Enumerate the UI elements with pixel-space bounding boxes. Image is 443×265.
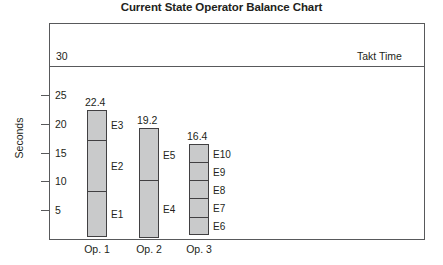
y-axis-title: Seconds: [13, 108, 25, 168]
bar-segment[interactable]: E10: [189, 144, 209, 163]
y-axis-tick-label: 15: [55, 147, 67, 159]
stacked-bar[interactable]: E3E2E1: [87, 110, 107, 239]
bar-segment-label: E4: [163, 204, 175, 215]
bar-segment[interactable]: E3: [87, 110, 107, 141]
bar-segment[interactable]: E6: [189, 217, 209, 235]
bar-segment[interactable]: E7: [189, 198, 209, 217]
y-axis-tick-mark: [41, 153, 50, 154]
bar-segment-label: E1: [111, 208, 123, 219]
bar-value-label: 22.4: [85, 96, 105, 108]
bar-segment[interactable]: E1: [87, 191, 107, 237]
y-axis-tick-mark: [41, 210, 50, 211]
x-axis-tick-label: Op. 3: [169, 243, 229, 255]
x-axis-tick-label: Op. 1: [67, 243, 127, 255]
stacked-bar[interactable]: E5E4: [139, 128, 159, 239]
bar-segment-label: E5: [163, 149, 175, 160]
bar-value-label: 16.4: [187, 130, 207, 142]
bar-segment[interactable]: E9: [189, 162, 209, 181]
bar-value-label: 19.2: [137, 114, 157, 126]
bar-segment-label: E9: [213, 166, 225, 177]
bar-segment[interactable]: E4: [139, 180, 159, 238]
chart-title: Current State Operator Balance Chart: [0, 1, 443, 13]
y-axis-tick-mark: [41, 181, 50, 182]
bar-segment-label: E2: [111, 160, 123, 171]
y-axis-tick-mark: [41, 95, 50, 96]
y-axis-tick-label: 20: [55, 118, 67, 130]
bar-segment-label: E6: [213, 220, 225, 231]
takt-time-value-label: 30: [56, 50, 68, 62]
takt-time-label: Takt Time: [357, 50, 402, 62]
takt-time-reference-line: [49, 66, 425, 67]
bar-segment[interactable]: E5: [139, 128, 159, 181]
y-axis-tick-label: 5: [55, 204, 61, 216]
stacked-bar[interactable]: E10E9E8E7E6: [189, 144, 209, 239]
bar-segment[interactable]: E2: [87, 140, 107, 192]
y-axis-tick-label: 10: [55, 175, 67, 187]
x-axis-line: [49, 239, 425, 240]
bar-segment-label: E8: [213, 184, 225, 195]
bar-segment[interactable]: E8: [189, 180, 209, 199]
bar-segment-label: E10: [213, 148, 231, 159]
bar-segment-label: E7: [213, 202, 225, 213]
y-axis-tick-mark: [41, 124, 50, 125]
bar-segment-label: E3: [111, 120, 123, 131]
y-axis-tick-label: 25: [55, 89, 67, 101]
